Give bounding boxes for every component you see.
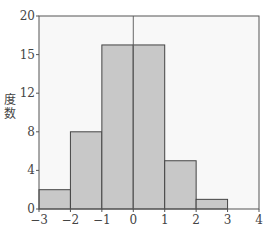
y-tick-label: 15 (20, 48, 35, 62)
y-tick-label: 20 (20, 9, 35, 23)
x-tick-label: 2 (192, 213, 200, 227)
histogram-bar (165, 161, 196, 209)
y-tick-label: 4 (27, 163, 35, 177)
y-axis-title: 度 (4, 92, 16, 107)
x-tick-label: 1 (161, 213, 169, 227)
histogram-bar (70, 132, 101, 209)
y-axis: 048121520 (20, 9, 39, 216)
x-axis: −3−2−101234 (30, 209, 263, 227)
y-axis-title-2: 数 (4, 106, 16, 121)
y-tick-label: 8 (27, 125, 35, 139)
x-tick-label: 4 (255, 213, 263, 227)
x-tick-label: 0 (129, 213, 137, 227)
x-tick-label: −2 (62, 213, 80, 227)
x-tick-label: −3 (30, 213, 48, 227)
x-tick-label: 3 (224, 213, 232, 227)
y-tick-label: 12 (20, 86, 35, 100)
histogram-bar (102, 45, 133, 209)
histogram-chart: 048121520 −3−2−101234 度 数 (0, 0, 271, 232)
histogram-bar (133, 45, 164, 209)
histogram-bar (196, 199, 227, 209)
histogram-bar (39, 190, 70, 209)
x-tick-label: −1 (93, 213, 111, 227)
